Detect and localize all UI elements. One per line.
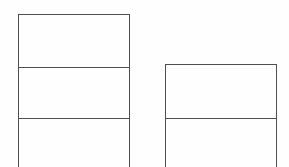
- left-box-row-2-text: [19, 68, 129, 72]
- left-box-row-1-text: [19, 15, 129, 19]
- diagram-canvas: [0, 0, 289, 167]
- right-box-row-1[interactable]: [166, 65, 276, 119]
- right-box-row-1-text: [166, 65, 276, 69]
- left-box-row-1[interactable]: [19, 15, 129, 68]
- left-box[interactable]: [18, 14, 130, 167]
- left-box-row-3[interactable]: [19, 119, 129, 167]
- right-box-row-2-text: [166, 119, 276, 123]
- right-box[interactable]: [165, 64, 277, 167]
- left-box-row-3-text: [19, 119, 129, 123]
- right-box-row-2[interactable]: [166, 119, 276, 167]
- left-box-row-2[interactable]: [19, 68, 129, 119]
